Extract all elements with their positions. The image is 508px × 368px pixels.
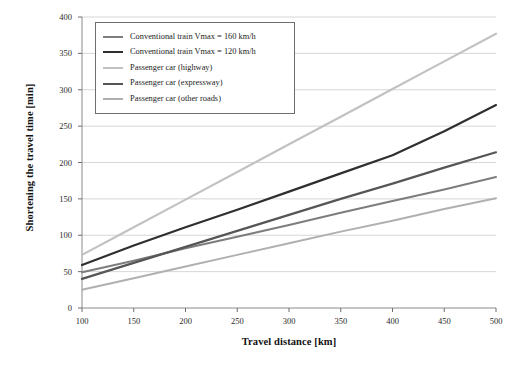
legend-item-label: Passenger car (expressway) bbox=[130, 79, 223, 87]
legend-color-swatch bbox=[103, 83, 123, 85]
legend-item-label: Passenger car (highway) bbox=[130, 64, 212, 72]
legend-color-swatch bbox=[103, 98, 123, 100]
series-line bbox=[82, 198, 496, 290]
series-line bbox=[82, 105, 496, 265]
chart-figure: Shortening the travel time [min] Travel … bbox=[0, 0, 508, 368]
legend-item: Passenger car (other roads) bbox=[103, 91, 286, 107]
legend-item: Conventional train Vmax = 120 km/h bbox=[103, 45, 286, 61]
legend-color-swatch bbox=[103, 51, 123, 53]
legend-color-swatch bbox=[103, 67, 123, 69]
legend-item: Passenger car (highway) bbox=[103, 60, 286, 76]
series-line bbox=[82, 152, 496, 279]
chart-legend: Conventional train Vmax = 160 km/hConven… bbox=[95, 22, 295, 114]
legend-item: Conventional train Vmax = 160 km/h bbox=[103, 29, 286, 45]
legend-color-swatch bbox=[103, 36, 123, 38]
legend-item-label: Conventional train Vmax = 160 km/h bbox=[130, 33, 256, 41]
legend-item-label: Conventional train Vmax = 120 km/h bbox=[130, 48, 256, 56]
legend-item: Passenger car (expressway) bbox=[103, 76, 286, 92]
legend-item-label: Passenger car (other roads) bbox=[130, 95, 221, 103]
